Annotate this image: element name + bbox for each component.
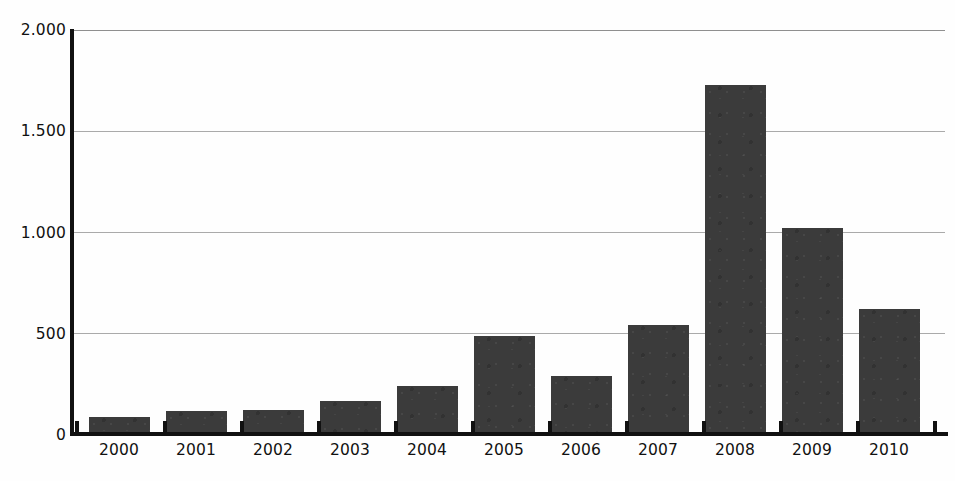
bar-2002	[243, 410, 304, 434]
bar-2010	[859, 309, 920, 434]
x-tick-0	[75, 421, 79, 434]
y-tick-label-0: 0	[56, 428, 66, 444]
y-tick-label-1500: 1.500	[21, 124, 66, 140]
y-tick-label-1000: 1.000	[21, 226, 66, 242]
gridline-1500	[73, 131, 945, 132]
x-label-2002: 2002	[233, 443, 313, 459]
x-label-2003: 2003	[310, 443, 390, 459]
bar-2003	[320, 401, 381, 434]
plot-area	[73, 30, 945, 434]
x-label-2001: 2001	[156, 443, 236, 459]
y-axis-line	[70, 29, 74, 436]
x-label-2009: 2009	[772, 443, 852, 459]
bar-2008	[705, 85, 766, 434]
x-tick-4	[394, 421, 398, 434]
x-tick-6	[548, 421, 552, 434]
x-label-2008: 2008	[695, 443, 775, 459]
x-axis-line	[70, 432, 948, 436]
y-tick-label-2000: 2.000	[21, 23, 66, 39]
x-label-2005: 2005	[464, 443, 544, 459]
y-axis-labels: 2.000 1.500 1.000 500 0	[0, 0, 66, 481]
gridline-2000	[73, 30, 945, 31]
x-label-2004: 2004	[387, 443, 467, 459]
bar-chart: 2.000 1.500 1.000 500 0 2000 2001 2	[0, 0, 955, 481]
x-tick-10	[856, 421, 860, 434]
x-tick-1	[163, 421, 167, 434]
y-tick-label-500: 500	[36, 327, 66, 343]
x-tick-11	[933, 421, 937, 434]
bar-2009	[782, 228, 843, 434]
bar-2004	[397, 386, 458, 434]
bar-2001	[166, 411, 227, 434]
x-tick-9	[779, 421, 783, 434]
x-tick-2	[240, 421, 244, 434]
x-tick-7	[625, 421, 629, 434]
x-label-2007: 2007	[618, 443, 698, 459]
x-tick-5	[471, 421, 475, 434]
bar-2006	[551, 376, 612, 434]
x-label-2000: 2000	[79, 443, 159, 459]
x-label-2006: 2006	[541, 443, 621, 459]
x-tick-8	[702, 421, 706, 434]
x-tick-3	[317, 421, 321, 434]
bar-2007	[628, 325, 689, 434]
x-label-2010: 2010	[849, 443, 929, 459]
bar-2005	[474, 336, 535, 434]
